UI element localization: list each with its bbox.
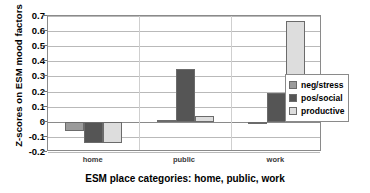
y-tick-mark (42, 136, 47, 137)
bar-public-productive (195, 116, 214, 122)
legend-swatch-icon (289, 81, 297, 89)
y-tick-mark (42, 60, 47, 61)
y-tick-label: 0.6 (5, 25, 45, 36)
y-tick-mark (42, 45, 47, 46)
legend: neg/stresspos/socialproductive (285, 74, 349, 122)
gridline (48, 16, 320, 17)
gridline (48, 31, 320, 32)
x-tick-label-public: public (139, 155, 229, 164)
legend-item-pos-social: pos/social (289, 92, 344, 104)
legend-label: pos/social (301, 93, 343, 103)
x-axis-title: ESM place categories: home, public, work (0, 173, 370, 184)
y-tick-label: 0.7 (5, 10, 45, 21)
x-tick-label-home: home (48, 155, 138, 164)
y-tick-mark (42, 91, 47, 92)
gridline (48, 46, 320, 47)
y-tick-mark (42, 30, 47, 31)
bar-public-neg-stress (157, 120, 176, 122)
chart-figure: Z-scores on ESM mood factors neg/stressp… (0, 0, 370, 193)
bar-work-neg-stress (248, 122, 267, 124)
y-tick-mark (42, 151, 47, 152)
y-tick-mark (42, 121, 47, 122)
legend-item-neg-stress: neg/stress (289, 79, 344, 91)
legend-label: productive (301, 106, 344, 116)
gridline (48, 152, 320, 153)
legend-swatch-icon (289, 107, 297, 115)
bar-home-productive (103, 122, 122, 143)
legend-label: neg/stress (301, 80, 344, 90)
plot-area (47, 15, 321, 151)
y-tick-label: -0.2 (5, 146, 45, 157)
legend-item-productive: productive (289, 105, 344, 117)
category-separator (139, 16, 140, 150)
bar-home-neg-stress (65, 122, 84, 131)
y-tick-label: 0.5 (5, 40, 45, 51)
category-separator (231, 16, 232, 150)
y-tick-label: 0.2 (5, 85, 45, 96)
y-tick-label: 0.3 (5, 70, 45, 81)
y-tick-label: 0.4 (5, 55, 45, 66)
y-tick-label: 0 (5, 115, 45, 126)
bar-work-pos-social (267, 93, 286, 122)
x-tick-label-work: work (230, 155, 320, 164)
y-tick-mark (42, 75, 47, 76)
bar-public-pos-social (176, 69, 195, 122)
y-tick-label: 0.1 (5, 100, 45, 111)
y-tick-mark (42, 15, 47, 16)
gridline (48, 61, 320, 62)
legend-swatch-icon (289, 94, 297, 102)
bar-home-pos-social (84, 122, 103, 143)
y-tick-mark (42, 106, 47, 107)
y-tick-label: -0.1 (5, 130, 45, 141)
